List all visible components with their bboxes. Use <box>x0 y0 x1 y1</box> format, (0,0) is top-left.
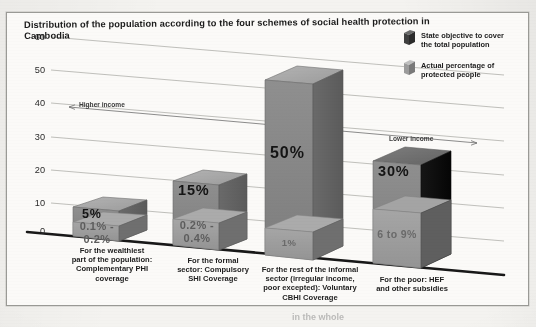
category-3-line4: CBHI Coverage <box>282 293 337 302</box>
category-2-line2: sector: Compulsory <box>177 265 249 274</box>
legend-label-state-objective: State objective to cover the total popul… <box>421 30 504 50</box>
chart-figure-frame: Distribution of the population according… <box>6 12 529 306</box>
y-axis-tick-60: 60 <box>23 32 45 42</box>
category-1-line2: part of the population: <box>72 255 153 264</box>
bar-4-actual-label: 6 to 9% <box>371 228 423 241</box>
bar-2-actual-line1: 0.2% - <box>180 219 214 231</box>
y-axis-tick-0: 0 <box>23 226 45 236</box>
category-4-line2: and other subsidies <box>376 284 448 293</box>
legend-label-actual-percentage: Actual percentage of protected people <box>421 60 494 80</box>
bar-1-actual-label: 0.1% - 0.2% <box>73 220 121 245</box>
category-2-line3: SHI Coverage <box>188 274 237 283</box>
category-label-4: For the poor: HEF and other subsidies <box>357 275 467 293</box>
bar-4-objective-label: 30% <box>378 163 410 179</box>
category-3-line2: sector (irregular income, <box>265 274 354 283</box>
dark-cube-swatch <box>404 30 415 45</box>
y-axis-tick-40: 40 <box>23 98 45 108</box>
plot-area: Distribution of the population according… <box>7 13 528 305</box>
category-3-line1: For the rest of the informal <box>262 265 359 274</box>
category-2-line1: For the formal <box>187 256 238 265</box>
category-3-line3: poor excepted): Voluntary <box>263 283 357 292</box>
y-axis-tick-30: 30 <box>23 132 45 142</box>
category-1-line4: coverage <box>95 274 128 283</box>
legend-item-state-objective[interactable]: State objective to cover the total popul… <box>404 30 504 50</box>
dark-cube-icon <box>404 30 415 45</box>
bar-1-actual-line2: 0.2% <box>84 233 111 245</box>
bar-group-3[interactable] <box>265 66 343 260</box>
bar-1-actual-line1: 0.1% - <box>80 220 114 232</box>
bar-3-actual-label: 1% <box>265 237 313 250</box>
bar-1-objective-label: 5% <box>82 207 102 221</box>
light-cube-swatch <box>404 60 415 75</box>
annotation-higher-income: Higher income <box>79 101 125 108</box>
bar-2-actual-line2: 0.4% <box>184 232 211 244</box>
scanned-page: Distribution of the population according… <box>0 0 536 327</box>
y-axis-tick-10: 10 <box>23 198 45 208</box>
annotation-lower-income: Lower income <box>389 135 433 142</box>
light-cube-icon <box>404 60 415 75</box>
chart-title: Distribution of the population according… <box>24 16 454 42</box>
category-4-line1: For the poor: HEF <box>380 275 445 284</box>
legend-item-actual-percentage[interactable]: Actual percentage of protected people <box>404 60 494 80</box>
bar-2-actual-label: 0.2% - 0.4% <box>173 219 221 244</box>
category-label-3: For the rest of the informal sector (irr… <box>247 265 373 302</box>
y-axis-tick-50: 50 <box>23 65 45 75</box>
category-1-line3: Complementary PHI <box>76 264 148 273</box>
page-cutoff-caption: in the whole <box>292 312 344 322</box>
bar-3-objective-label: 50% <box>270 144 305 162</box>
category-1-line1: For the wealthiest <box>80 246 145 255</box>
category-label-1: For the wealthiest part of the populatio… <box>59 246 165 283</box>
bar-2-objective-label: 15% <box>178 182 210 198</box>
y-axis-tick-20: 20 <box>23 165 45 175</box>
